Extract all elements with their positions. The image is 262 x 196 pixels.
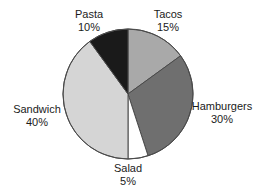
pie-label-salad-name: Salad	[100, 162, 156, 175]
pie-label-pasta-name: Pasta	[61, 8, 117, 21]
pie-label-hamburgers: Hamburgers 30%	[184, 100, 260, 125]
pie-label-hamburgers-percent: 30%	[184, 113, 260, 126]
pie-chart-figure: Pasta 10% Tacos 15% Hamburgers 30% Sandw…	[0, 0, 262, 196]
pie-slices	[63, 29, 193, 159]
pie-label-sandwich: Sandwich 40%	[2, 103, 72, 128]
pie-label-salad: Salad 5%	[100, 162, 156, 187]
pie-label-tacos-name: Tacos	[140, 8, 196, 21]
pie-label-sandwich-percent: 40%	[2, 116, 72, 129]
pie-label-tacos: Tacos 15%	[140, 8, 196, 33]
pie-label-sandwich-name: Sandwich	[2, 103, 72, 116]
pie-label-salad-percent: 5%	[100, 175, 156, 188]
pie-label-pasta: Pasta 10%	[61, 8, 117, 33]
pie-label-tacos-percent: 15%	[140, 21, 196, 34]
pie-label-hamburgers-name: Hamburgers	[184, 100, 260, 113]
pie-label-pasta-percent: 10%	[61, 21, 117, 34]
